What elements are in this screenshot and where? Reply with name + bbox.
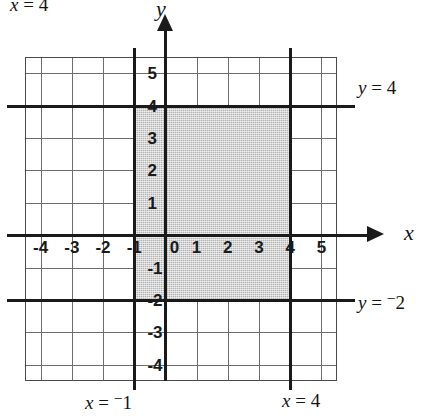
label-y4-value: 4 [387, 77, 397, 98]
x-tick-label: 5 [317, 239, 326, 256]
label-x4-equals: = [290, 390, 310, 411]
y-tick-label: 2 [147, 162, 156, 179]
x-tick-label: -1 [127, 239, 142, 256]
label-yneg2-equals: = [366, 292, 386, 313]
label-y-equals-4: y = 4 [358, 78, 396, 97]
label-x4-value: 4 [311, 390, 321, 411]
y-tick-label: -2 [147, 292, 162, 309]
x-tick-label: 2 [223, 239, 232, 256]
label-x-equals-negative-1: x = −1 [85, 391, 132, 412]
label-yneg2-value: 2 [395, 292, 405, 313]
plot-area: -4-3-2-1012345-4-3-2-112345 [25, 57, 337, 381]
boundary-line-x-1 [133, 48, 136, 390]
y-tick-label: 5 [147, 65, 156, 82]
y-axis-arrowhead [157, 14, 173, 31]
boundary-line-y-2 [7, 299, 355, 302]
label-xneg1-equals: = [93, 392, 113, 413]
label-x-equals-4-bottom: x = 4 [282, 391, 320, 410]
boundary-line-x-4 [289, 48, 292, 390]
y-tick-label: -4 [147, 356, 162, 373]
y-tick-label: -1 [147, 259, 162, 276]
axis-x-label: x [404, 222, 414, 244]
label-y4-equals: = [366, 77, 386, 98]
x-axis-line [7, 234, 367, 237]
boundary-line-y-4 [7, 105, 355, 108]
x-tick-label: -4 [33, 239, 48, 256]
y-tick-label: 1 [147, 194, 156, 211]
label-x-equals-4-top: x = 4 [10, 0, 48, 14]
x-tick-label: 3 [254, 239, 263, 256]
y-tick-label: 4 [147, 97, 156, 114]
y-axis-line [164, 30, 167, 381]
x-tick-label: 4 [285, 239, 294, 256]
x-tick-label: 1 [192, 239, 201, 256]
label-top-left-prefix-rest: = [18, 0, 38, 15]
x-tick-label: -3 [64, 239, 79, 256]
y-tick-label: -3 [147, 324, 162, 341]
x-tick-label: 0 [170, 239, 179, 256]
label-xneg1-value: 1 [122, 392, 132, 413]
label-y-equals-negative-2: y = −2 [358, 291, 405, 312]
y-tick-label: 3 [147, 130, 156, 147]
coordinate-plane-figure: x = 4 y x y = 4 y = −2 x = −1 x = 4 -4-3… [0, 0, 446, 418]
x-axis-arrowhead [367, 226, 384, 242]
x-tick-label: -2 [95, 239, 110, 256]
label-top-left-value: 4 [39, 0, 49, 15]
